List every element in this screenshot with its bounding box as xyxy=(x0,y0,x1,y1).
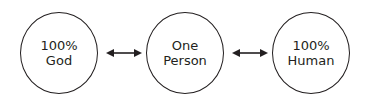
node-human-line1: 100% xyxy=(292,38,329,53)
node-one-person-line2: Person xyxy=(163,53,207,68)
node-human: 100% Human xyxy=(272,12,350,94)
double-arrow-icon xyxy=(232,46,268,60)
node-god-line2: God xyxy=(46,53,72,68)
node-one-person-line1: One xyxy=(172,38,198,53)
node-human-line2: Human xyxy=(288,53,335,68)
node-one-person: One Person xyxy=(146,12,224,94)
double-arrow-icon xyxy=(106,46,142,60)
node-god: 100% God xyxy=(20,12,98,94)
node-god-line1: 100% xyxy=(40,38,77,53)
